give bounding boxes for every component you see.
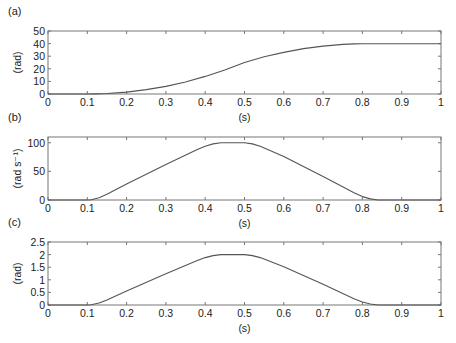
x-tick-label: 0.5 — [237, 202, 252, 214]
x-tick-label: 1 — [438, 202, 444, 214]
x-tick-label: 0.5 — [237, 96, 252, 108]
x-tick-label: 0.4 — [198, 96, 213, 108]
x-tick-label: 0.7 — [316, 202, 331, 214]
x-tick-label: 1 — [438, 96, 444, 108]
y-axis-label: (rad s⁻¹) — [11, 149, 23, 189]
x-tick-label: 0.1 — [80, 307, 95, 319]
x-tick-label: 0.1 — [80, 202, 95, 214]
x-tick-label: 0 — [45, 96, 51, 108]
y-tick-label: 20 — [33, 63, 45, 75]
x-tick-label: 0 — [45, 202, 51, 214]
y-tick-label: 1.5 — [30, 261, 45, 273]
panel-label: (a) — [8, 5, 21, 17]
panel-a: (a)00.10.20.30.40.50.60.70.80.9101020304… — [8, 5, 444, 123]
y-tick-label: 40 — [33, 38, 45, 50]
y-axis-label: (rad) — [11, 262, 23, 284]
x-tick-label: 0.6 — [276, 307, 291, 319]
x-tick-label: 0.5 — [237, 307, 252, 319]
y-tick-label: 0 — [39, 194, 45, 206]
x-tick-label: 0.4 — [198, 202, 213, 214]
x-tick-label: 0.7 — [316, 307, 331, 319]
y-tick-label: 30 — [33, 50, 45, 62]
x-tick-label: 0.9 — [394, 96, 409, 108]
x-axis-label: (s) — [238, 111, 250, 123]
x-tick-label: 0.6 — [276, 202, 291, 214]
series-line-velocity — [48, 143, 441, 200]
series-line-position — [48, 44, 441, 94]
x-tick-label: 0.8 — [355, 202, 370, 214]
series-line-angle — [48, 255, 441, 305]
x-tick-label: 0.4 — [198, 307, 213, 319]
x-tick-label: 0.9 — [394, 202, 409, 214]
panel-label: (c) — [8, 216, 21, 228]
x-tick-label: 0.2 — [119, 307, 134, 319]
y-tick-label: 50 — [33, 165, 45, 177]
y-tick-label: 100 — [27, 137, 45, 149]
x-tick-label: 0.1 — [80, 96, 95, 108]
y-tick-label: 0 — [39, 299, 45, 311]
x-tick-label: 0.2 — [119, 96, 134, 108]
plot-frame — [48, 242, 441, 305]
x-tick-label: 0.6 — [276, 96, 291, 108]
x-tick-label: 0.8 — [355, 307, 370, 319]
x-tick-label: 0.3 — [159, 307, 174, 319]
x-tick-label: 0.2 — [119, 202, 134, 214]
y-tick-label: 2 — [39, 249, 45, 261]
x-tick-label: 1 — [438, 307, 444, 319]
y-tick-label: 50 — [33, 25, 45, 37]
y-tick-label: 0.5 — [30, 286, 45, 298]
x-tick-label: 0.9 — [394, 307, 409, 319]
x-tick-label: 0.3 — [159, 96, 174, 108]
y-tick-label: 0 — [39, 88, 45, 100]
panel-label: (b) — [8, 111, 21, 123]
x-axis-label: (s) — [238, 322, 250, 334]
x-tick-label: 0.3 — [159, 202, 174, 214]
x-tick-label: 0.8 — [355, 96, 370, 108]
x-tick-label: 0.7 — [316, 96, 331, 108]
y-axis-label: (rad) — [11, 51, 23, 73]
y-tick-label: 1 — [39, 274, 45, 286]
y-tick-label: 10 — [33, 75, 45, 87]
panel-b: (b)00.10.20.30.40.50.60.70.80.91050100(s… — [8, 111, 444, 229]
plot-frame — [48, 137, 441, 200]
x-axis-label: (s) — [238, 217, 250, 229]
x-tick-label: 0 — [45, 307, 51, 319]
y-tick-label: 2.5 — [30, 236, 45, 248]
figure: (a)00.10.20.30.40.50.60.70.80.9101020304… — [0, 0, 456, 343]
panel-c: (c)00.10.20.30.40.50.60.70.80.9100.511.5… — [8, 216, 444, 334]
